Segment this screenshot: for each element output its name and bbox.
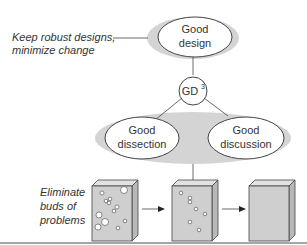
bottom-annotation-line1: Eliminate <box>40 186 85 198</box>
gd3-diagram: Good design Keep robust designs, minimiz… <box>0 0 307 245</box>
box-few-bubbles <box>172 180 218 241</box>
arrow-2-head <box>239 206 246 212</box>
box-no-bubbles <box>249 180 295 241</box>
gd3-superscript: 3 <box>201 83 205 90</box>
good-discussion-line2: discussion <box>220 138 271 150</box>
arrow-1-head <box>158 206 165 212</box>
good-dissection-line1: Good <box>129 124 156 136</box>
top-annotation-line1: Keep robust designs, <box>12 31 115 43</box>
box-many-bubbles <box>92 180 138 241</box>
good-dissection-line2: dissection <box>118 138 167 150</box>
top-annotation-line2: minimize change <box>12 44 95 56</box>
good-design-line1: Good <box>182 23 209 35</box>
bottom-annotation-line2: buds of <box>40 200 77 212</box>
gd3-label: GD <box>182 85 199 97</box>
bottom-annotation-line3: problems <box>39 214 86 226</box>
good-discussion-line1: Good <box>233 124 260 136</box>
good-design-line2: design <box>179 37 211 49</box>
